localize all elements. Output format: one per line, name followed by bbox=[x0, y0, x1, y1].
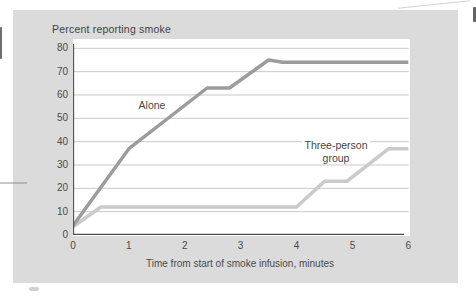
x-tick-label: 4 bbox=[286, 240, 308, 252]
chart-title: Percent reporting smoke bbox=[52, 23, 171, 35]
scan-artifact-left-line bbox=[0, 182, 27, 184]
y-tick-label: 80 bbox=[28, 42, 68, 54]
scanned-figure-page: Percent reporting smoke 0102030405060708… bbox=[0, 0, 476, 297]
plot-area bbox=[73, 39, 410, 236]
y-tick-label: 50 bbox=[28, 112, 68, 124]
chart-svg bbox=[73, 39, 410, 236]
x-tick-label: 1 bbox=[118, 240, 140, 252]
x-tick-label: 3 bbox=[230, 240, 252, 252]
x-tick-label: 2 bbox=[174, 240, 196, 252]
x-tick-label: 5 bbox=[341, 240, 363, 252]
series-label-three-person-line1: Three-person bbox=[302, 139, 369, 151]
y-tick-label: 60 bbox=[28, 89, 68, 101]
y-tick-label: 40 bbox=[28, 136, 68, 148]
scan-artifact-diagonal-line bbox=[398, 0, 470, 9]
x-tick-label: 0 bbox=[62, 240, 84, 252]
figure-panel: Percent reporting smoke 0102030405060708… bbox=[13, 10, 458, 283]
scan-artifact-left-strip bbox=[0, 27, 2, 59]
y-tick-label: 70 bbox=[28, 66, 68, 78]
y-tick-label: 20 bbox=[28, 182, 68, 194]
series-label-three-person-line2: group bbox=[321, 152, 352, 164]
scan-artifact-bottom-smudge bbox=[29, 287, 39, 291]
x-axis-title: Time from start of smoke infusion, minut… bbox=[120, 258, 360, 269]
y-tick-label: 30 bbox=[28, 159, 68, 171]
y-tick-label: 10 bbox=[28, 206, 68, 218]
series-label-three-person-group: Three-persongroup bbox=[296, 139, 376, 165]
series-label-alone: Alone bbox=[130, 99, 174, 112]
x-tick-label: 6 bbox=[397, 240, 419, 252]
